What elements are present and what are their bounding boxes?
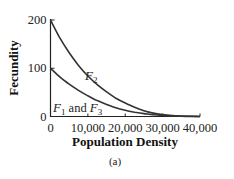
y-axis-title: Fecundity: [6, 40, 21, 96]
x-tick-label: 10,000: [71, 121, 105, 135]
y-tick-label: 0: [40, 110, 46, 124]
figure-caption: (a): [109, 155, 122, 168]
fecundity-chart: 0100200 010,00020,00030,00040,000 F2 F1 …: [0, 0, 234, 179]
curve-label-f1-and-f3: F1 and F3: [52, 100, 103, 117]
x-tick-label: 20,000: [108, 121, 142, 135]
x-tick-label: 30,000: [145, 121, 179, 135]
x-tick-label: 0: [47, 121, 53, 135]
x-tick-label: 40,000: [183, 121, 217, 135]
curve-label-f2: F2: [84, 68, 97, 85]
y-tick-label: 200: [28, 13, 47, 27]
x-axis-title: Population Density: [72, 134, 178, 149]
y-tick-label: 100: [28, 61, 47, 75]
